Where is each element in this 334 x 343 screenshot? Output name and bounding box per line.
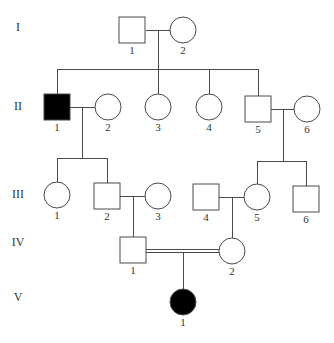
individual-ii-5: 5: [245, 96, 271, 135]
female-circle-icon: [170, 17, 196, 43]
female-circle-icon: [145, 94, 171, 120]
male-square-icon: [94, 183, 120, 209]
individuals: 12123456123456121: [44, 17, 320, 328]
generation-label-iii: III: [12, 187, 24, 201]
female-circle-icon: [196, 94, 222, 120]
affected-male-square-icon: [44, 94, 70, 120]
individual-iii-5: 5: [244, 184, 270, 223]
female-circle-icon: [44, 182, 70, 208]
individual-number-label: 2: [229, 265, 235, 277]
individual-number-label: 2: [104, 210, 110, 222]
individual-number-label: 2: [105, 121, 111, 133]
male-square-icon: [245, 96, 271, 122]
individual-ii-2: 2: [95, 94, 121, 133]
individual-number-label: 6: [304, 123, 310, 135]
male-square-icon: [193, 184, 219, 210]
individual-number-label: 4: [206, 121, 212, 133]
individual-number-label: 6: [303, 213, 309, 225]
individual-number-label: 4: [203, 211, 209, 223]
female-circle-icon: [219, 238, 245, 264]
female-circle-icon: [244, 184, 270, 210]
individual-i-1: 1: [119, 17, 145, 56]
individual-number-label: 1: [130, 264, 136, 276]
individual-number-label: 1: [180, 316, 186, 328]
female-circle-icon: [95, 94, 121, 120]
individual-number-label: 3: [155, 121, 161, 133]
generation-label-i: I: [16, 20, 20, 34]
individual-number-label: 1: [54, 209, 60, 221]
individual-number-label: 1: [54, 121, 60, 133]
individual-iii-6: 6: [293, 186, 319, 225]
individual-iii-1: 1: [44, 182, 70, 221]
male-square-icon: [293, 186, 319, 212]
male-square-icon: [119, 17, 145, 43]
individual-ii-1: 1: [44, 94, 70, 133]
individual-iii-4: 4: [193, 184, 219, 223]
generation-label-iv: IV: [12, 235, 25, 249]
female-circle-icon: [145, 183, 171, 209]
generation-labels: IIIIIIIVV: [12, 20, 25, 304]
individual-v-1: 1: [170, 289, 196, 328]
individual-i-2: 2: [170, 17, 196, 56]
individual-number-label: 3: [155, 210, 161, 222]
male-square-icon: [120, 237, 146, 263]
affected-female-circle-icon: [170, 289, 196, 315]
pedigree-chart: IIIIIIIVV 12123456123456121: [0, 0, 334, 343]
individual-ii-3: 3: [145, 94, 171, 133]
individual-iii-2: 2: [94, 183, 120, 222]
individual-number-label: 5: [254, 211, 260, 223]
generation-label-ii: II: [14, 99, 22, 113]
individual-ii-6: 6: [294, 96, 320, 135]
individual-number-label: 2: [180, 44, 186, 56]
individual-iv-2: 2: [219, 238, 245, 277]
individual-number-label: 5: [255, 123, 261, 135]
female-circle-icon: [294, 96, 320, 122]
individual-iv-1: 1: [120, 237, 146, 276]
individual-iii-3: 3: [145, 183, 171, 222]
generation-label-v: V: [14, 290, 23, 304]
individual-ii-4: 4: [196, 94, 222, 133]
connection-lines: [57, 30, 306, 289]
individual-number-label: 1: [129, 44, 135, 56]
